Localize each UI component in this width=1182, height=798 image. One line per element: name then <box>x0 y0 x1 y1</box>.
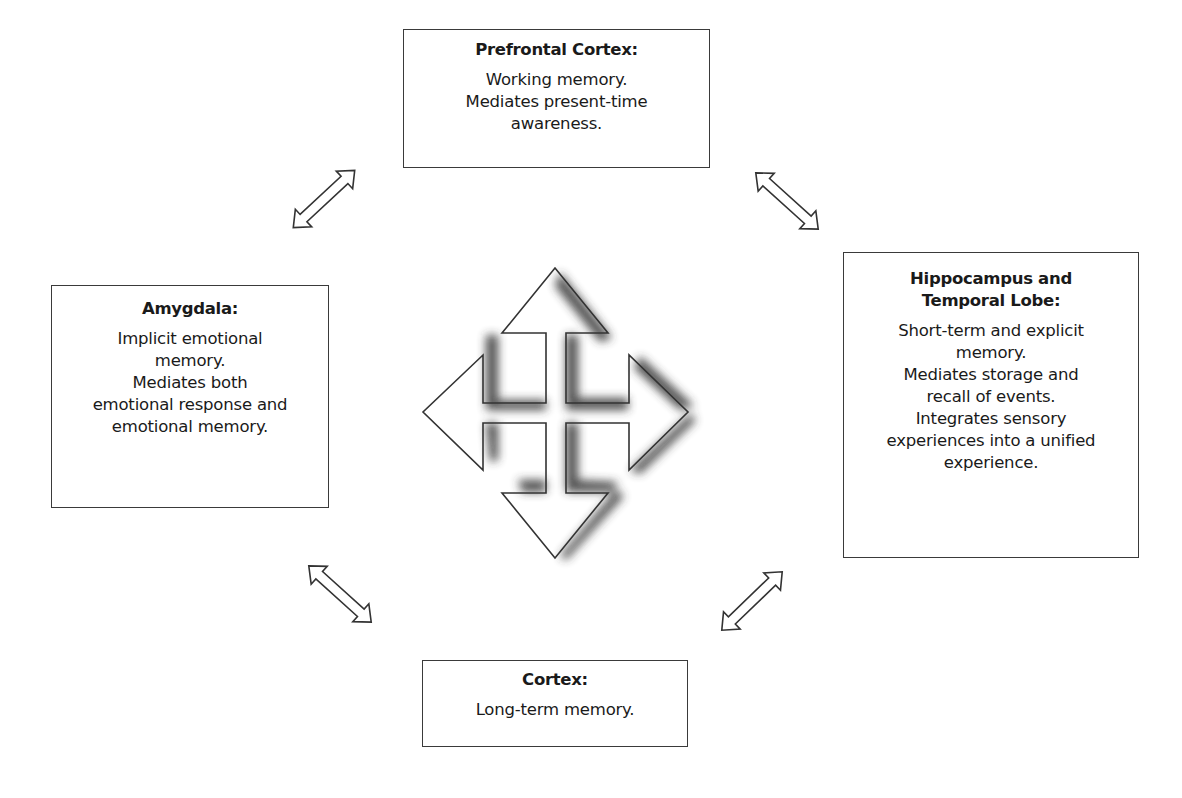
text-line: Short-term and explicit <box>844 320 1138 342</box>
title-line: Hippocampus and <box>844 268 1138 290</box>
prefrontal-cortex-box: Prefrontal Cortex: Working memory. Media… <box>403 29 710 168</box>
text-line: Mediates storage and <box>844 364 1138 386</box>
double-arrow-icon-amygdala-cortex <box>301 557 379 631</box>
hippocampus-description: Short-term and explicit memory. Mediates… <box>844 320 1138 474</box>
text-line: Implicit emotional <box>52 328 328 350</box>
cortex-box: Cortex: Long-term memory. <box>422 660 688 747</box>
text-line: memory. <box>52 350 328 372</box>
text-line: experience. <box>844 452 1138 474</box>
text-line: Mediates present-time <box>404 91 709 113</box>
text-line: Integrates sensory <box>844 408 1138 430</box>
hippocampus-title: Hippocampus and Temporal Lobe: <box>844 268 1138 312</box>
double-arrow-icon-prefrontal-hippocampus <box>748 164 826 238</box>
hippocampus-temporal-lobe-box: Hippocampus and Temporal Lobe: Short-ter… <box>843 252 1139 558</box>
title-line: Temporal Lobe: <box>844 290 1138 312</box>
text-line: memory. <box>844 342 1138 364</box>
double-arrow-icon-cortex-hippocampus <box>713 563 790 639</box>
text-line: awareness. <box>404 113 709 135</box>
text-line: Long-term memory. <box>423 699 687 721</box>
amygdala-title: Amygdala: <box>52 298 328 320</box>
cortex-title: Cortex: <box>423 669 687 691</box>
double-arrow-icon-amygdala-prefrontal <box>285 162 363 237</box>
cortex-description: Long-term memory. <box>423 699 687 721</box>
four-way-arrow-icon <box>423 268 688 558</box>
text-line: recall of events. <box>844 386 1138 408</box>
amygdala-box: Amygdala: Implicit emotional memory. Med… <box>51 285 329 508</box>
prefrontal-cortex-title: Prefrontal Cortex: <box>404 39 709 61</box>
amygdala-description: Implicit emotional memory. Mediates both… <box>52 328 328 438</box>
text-line: emotional memory. <box>52 416 328 438</box>
prefrontal-cortex-description: Working memory. Mediates present-time aw… <box>404 69 709 135</box>
text-line: emotional response and <box>52 394 328 416</box>
text-line: Mediates both <box>52 372 328 394</box>
text-line: Working memory. <box>404 69 709 91</box>
text-line: experiences into a unified <box>844 430 1138 452</box>
